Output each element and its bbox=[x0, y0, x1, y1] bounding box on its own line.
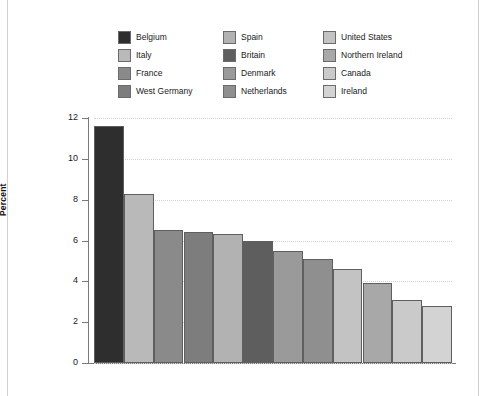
bar bbox=[243, 241, 273, 364]
legend-item-label: Netherlands bbox=[241, 87, 287, 96]
legend-item-label: Northern Ireland bbox=[341, 51, 402, 60]
bar bbox=[392, 300, 422, 363]
legend-item: Denmark bbox=[223, 64, 323, 82]
legend-swatch-icon bbox=[223, 67, 236, 80]
y-axis-tick-label: 4 bbox=[52, 276, 78, 285]
y-axis-tick-label: 10 bbox=[52, 154, 78, 163]
legend-item-label: Denmark bbox=[241, 69, 275, 78]
legend-swatch-icon bbox=[223, 85, 236, 98]
legend-item-label: Spain bbox=[241, 33, 263, 42]
bar bbox=[363, 283, 393, 363]
legend-item: France bbox=[118, 64, 223, 82]
y-axis-tick-label: 8 bbox=[52, 195, 78, 204]
legend-item: Canada bbox=[323, 64, 418, 82]
legend-item: West Germany bbox=[118, 82, 223, 100]
legend-item-label: Britain bbox=[241, 51, 265, 60]
legend-item: Ireland bbox=[323, 82, 418, 100]
bar bbox=[154, 230, 184, 363]
y-axis-title: Percent bbox=[0, 183, 8, 216]
legend-item: Northern Ireland bbox=[323, 46, 418, 64]
legend-item: Belgium bbox=[118, 28, 223, 46]
legend-item-label: Canada bbox=[341, 69, 371, 78]
y-axis-tick bbox=[82, 241, 89, 242]
legend-item: Netherlands bbox=[223, 82, 323, 100]
chart-legend: BelgiumItalyFranceWest GermanySpainBrita… bbox=[118, 28, 418, 100]
legend-swatch-icon bbox=[323, 49, 336, 62]
y-axis-tick bbox=[82, 363, 89, 364]
legend-item: United States bbox=[323, 28, 418, 46]
legend-item-label: United States bbox=[341, 33, 392, 42]
y-axis-tick-label: 2 bbox=[52, 317, 78, 326]
y-axis-tick bbox=[82, 200, 89, 201]
plot-area bbox=[94, 118, 452, 363]
y-axis-tick bbox=[82, 118, 89, 119]
legend-swatch-icon bbox=[118, 31, 131, 44]
legend-swatch-icon bbox=[118, 85, 131, 98]
bar bbox=[213, 234, 243, 363]
y-axis-tick-label: 0 bbox=[52, 358, 78, 367]
legend-swatch-icon bbox=[118, 49, 131, 62]
page-rule-right bbox=[478, 0, 479, 396]
legend-swatch-icon bbox=[323, 67, 336, 80]
bar bbox=[333, 269, 363, 363]
legend-item-label: Italy bbox=[136, 51, 152, 60]
legend-swatch-icon bbox=[223, 31, 236, 44]
bar bbox=[273, 251, 303, 363]
bar bbox=[184, 232, 214, 363]
legend-swatch-icon bbox=[223, 49, 236, 62]
legend-swatch-icon bbox=[323, 85, 336, 98]
legend-item: Britain bbox=[223, 46, 323, 64]
bar bbox=[303, 259, 333, 363]
legend-item-label: Belgium bbox=[136, 33, 167, 42]
y-axis-tick-label: 12 bbox=[52, 113, 78, 122]
legend-item: Italy bbox=[118, 46, 223, 64]
y-axis-tick bbox=[82, 322, 89, 323]
legend-item-label: Ireland bbox=[341, 87, 367, 96]
y-axis-tick-label: 6 bbox=[52, 236, 78, 245]
y-axis-tick bbox=[82, 281, 89, 282]
gridline bbox=[94, 118, 452, 120]
legend-item-label: France bbox=[136, 69, 162, 78]
bar bbox=[422, 306, 452, 363]
bar bbox=[124, 194, 154, 363]
legend-item-label: West Germany bbox=[136, 87, 193, 96]
y-axis-tick bbox=[82, 159, 89, 160]
legend-swatch-icon bbox=[323, 31, 336, 44]
legend-item: Spain bbox=[223, 28, 323, 46]
gridline bbox=[94, 363, 452, 365]
gridline bbox=[94, 159, 452, 161]
legend-swatch-icon bbox=[118, 67, 131, 80]
bar bbox=[94, 126, 124, 363]
bar-chart-figure: BelgiumItalyFranceWest GermanySpainBrita… bbox=[0, 0, 504, 396]
